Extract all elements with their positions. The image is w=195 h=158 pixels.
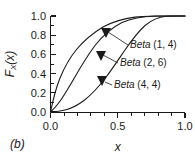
y-tick-label: 0.8 — [31, 29, 46, 41]
y-tick-label: 0.2 — [31, 87, 46, 99]
chart-canvas: 1.0 0.8 0.6 0.4 0.2 0.0 0.0 0.5 1.0 FX(x… — [0, 0, 195, 158]
y-axis-title: FX(x) — [3, 51, 18, 78]
series-label-beta-2-6: Beta (2, 6) — [120, 57, 167, 68]
x-axis-title: x — [114, 140, 122, 154]
y-tick-label: 1.0 — [31, 10, 46, 22]
panel-label: (b) — [10, 137, 25, 151]
y-tick-label: 0.6 — [31, 48, 46, 60]
x-tick-label: 0.5 — [110, 120, 125, 132]
svg-text:FX(x): FX(x) — [3, 51, 18, 78]
y-tick-label: 0.0 — [31, 106, 46, 118]
y-tick-label: 0.4 — [31, 68, 46, 80]
series-label-beta-4-4: Beta (4, 4) — [114, 79, 161, 90]
chart-background — [0, 0, 195, 158]
x-tick-label: 1.0 — [177, 120, 192, 132]
series-label-beta-1-4: Beta (1, 4) — [130, 39, 177, 50]
x-tick-label: 0.0 — [43, 120, 58, 132]
beta-cdf-figure: 1.0 0.8 0.6 0.4 0.2 0.0 0.0 0.5 1.0 FX(x… — [0, 0, 195, 158]
